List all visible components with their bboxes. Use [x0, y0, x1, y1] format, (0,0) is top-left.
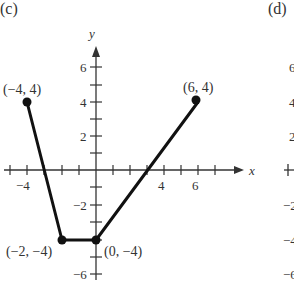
- y-axis-arrow-icon: [92, 46, 100, 57]
- point-marker: [23, 98, 32, 107]
- point-label: (−4, 4): [3, 82, 42, 98]
- point-label: (0, −4): [104, 244, 143, 260]
- graph-figure: (c) (d) −4 4 6 x: [0, 0, 294, 285]
- y-tick-label: 2: [80, 129, 87, 144]
- right-tick-label: 4: [289, 95, 294, 110]
- point-marker: [192, 96, 201, 105]
- right-tick-label: −6: [283, 267, 294, 282]
- point-label: (−2, −4): [6, 244, 52, 260]
- right-panel-d-partial: 6 4 2 −2 −4 −6: [283, 60, 294, 282]
- panel-label-d: (d): [268, 0, 287, 18]
- y-tick-label: 4: [80, 95, 87, 110]
- y-axis-label: y: [87, 26, 95, 41]
- point-label: (6, 4): [183, 80, 214, 96]
- x-tick-label: 4: [158, 178, 165, 193]
- y-tick-label: 6: [80, 60, 87, 75]
- x-tick-label: 6: [192, 178, 199, 193]
- panel-label-c: (c): [0, 0, 18, 18]
- x-tick-label: −4: [16, 178, 30, 193]
- y-tick-label: −6: [73, 267, 87, 282]
- right-tick-label: −2: [283, 198, 294, 213]
- right-tick-label: 2: [289, 129, 294, 144]
- right-tick-label: 6: [289, 60, 294, 75]
- point-marker: [58, 236, 67, 245]
- point-marker: [92, 236, 101, 245]
- x-axis: −4 4 6 x: [4, 163, 255, 193]
- y-tick-label: −2: [73, 198, 87, 213]
- right-tick-label: −4: [283, 233, 294, 248]
- x-axis-label: x: [248, 163, 255, 178]
- x-axis-arrow-icon: [234, 166, 244, 174]
